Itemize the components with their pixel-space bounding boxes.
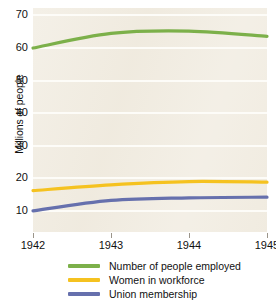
legend-label: Women in workforce — [109, 275, 205, 286]
legend-swatch-icon — [68, 292, 100, 296]
y-tick-label-70: 70 — [4, 9, 28, 20]
chart-legend: Number of people employedWomen in workfo… — [68, 259, 276, 301]
y-tick-label-10: 10 — [4, 205, 28, 216]
x-tick-mark-1944 — [189, 233, 190, 238]
series-line-number-of-people-employed — [33, 31, 267, 48]
x-tick-label-1943: 1943 — [89, 240, 133, 251]
series-lines — [33, 8, 267, 232]
y-tick-label-50: 50 — [4, 75, 28, 86]
y-tick-label-60: 60 — [4, 42, 28, 53]
legend-label: Union membership — [109, 289, 197, 300]
legend-item: Number of people employed — [68, 259, 276, 273]
legend-swatch-icon — [68, 264, 100, 268]
x-tick-mark-1943 — [111, 233, 112, 238]
line-chart: Millions of people 70605040302010 194219… — [0, 0, 276, 301]
legend-swatch-icon — [68, 278, 100, 282]
legend-item: Women in workforce — [68, 273, 276, 287]
x-tick-mark-1942 — [33, 233, 34, 238]
x-tick-label-1945: 1945 — [245, 240, 276, 251]
series-line-union-membership — [33, 197, 267, 211]
legend-item: Union membership — [68, 287, 276, 301]
legend-label: Number of people employed — [109, 261, 241, 272]
y-tick-label-30: 30 — [4, 140, 28, 151]
x-tick-label-1944: 1944 — [167, 240, 211, 251]
y-tick-label-40: 40 — [4, 107, 28, 118]
y-tick-label-20: 20 — [4, 172, 28, 183]
plot-area — [33, 8, 267, 232]
series-line-women-in-workforce — [33, 181, 267, 190]
x-tick-label-1942: 1942 — [11, 240, 55, 251]
x-tick-mark-1945 — [267, 233, 268, 238]
